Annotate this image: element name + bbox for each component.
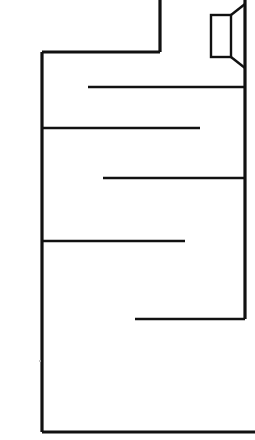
paper-speck (39, 360, 41, 362)
plan-background (0, 0, 255, 440)
floor-plan-canvas (0, 0, 255, 440)
paper-specks-group (39, 360, 41, 362)
floorplan-drawing (0, 0, 255, 440)
